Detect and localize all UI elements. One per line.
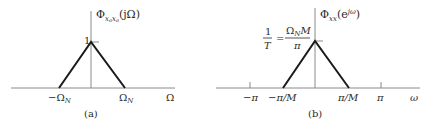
panel-a-triangle-spectrum [59,42,125,88]
panel-b-caption: (b) [308,108,322,119]
panel-a-peak-label: 1 [84,35,90,46]
panel-b-tick-label-neg-pi-over-m: −π/M [268,92,297,103]
panel-a-tick-neg-omega-n: −ΩN [48,92,72,105]
panel-b-peak-label: 1 T = ΩNM π [263,25,311,51]
panel-b-tick-label-neg-pi: −π [243,92,258,103]
peak-rhs-numerator: ΩNM [286,25,311,38]
peak-rhs-denominator: π [293,40,301,51]
panel-b-tick-label-pi: π [376,92,384,103]
panel-b-title: Φxx(ejω) [320,8,360,23]
panel-a-title: Φxaxa(jΩ) [96,8,140,23]
panel-a-tick-omega-n: ΩN [119,92,134,105]
peak-lhs-denominator: T [264,40,272,51]
panel-b-x-axis-label: ω [410,92,418,103]
peak-equals: = [276,33,284,44]
diagram-canvas: Φxaxa(jΩ) 1 −ΩN ΩN Ω (a) Φxx(ejω) 1 T = … [0,0,432,126]
panel-a-caption: (a) [84,108,98,119]
panel-a-x-axis-label: Ω [166,92,174,103]
panel-b-tick-label-pi-over-m: π/M [337,92,359,103]
panel-b: Φxx(ejω) 1 T = ΩNM π −π −π/M π/M π ω (b) [216,8,420,119]
peak-lhs-numerator: 1 [265,26,271,37]
panel-a: Φxaxa(jΩ) 1 −ΩN ΩN Ω (a) [11,8,175,119]
panel-b-triangle-spectrum [283,41,349,88]
